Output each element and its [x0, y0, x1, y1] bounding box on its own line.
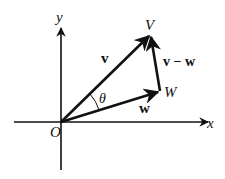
vector-v-minus-w-label: v − w: [163, 54, 196, 69]
angle-theta-label: θ: [99, 91, 106, 106]
x-axis-label: x: [206, 115, 214, 131]
vector-v-label: v: [101, 50, 109, 66]
point-w-label: W: [164, 84, 178, 100]
point-v-label: V: [145, 17, 156, 33]
y-axis-label: y: [54, 9, 63, 25]
origin-label: O: [50, 124, 61, 140]
angle-arc: [90, 94, 99, 110]
vector-w-label: w: [139, 100, 150, 116]
vector-v-minus-w-arrow: [151, 37, 160, 91]
vector-diagram: y x O V W v w v − w θ: [0, 0, 225, 179]
